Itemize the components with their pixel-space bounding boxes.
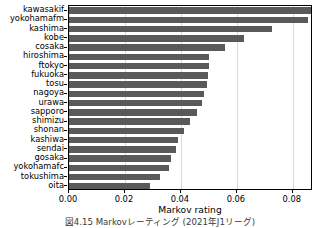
x-tick-mark-0.08 — [292, 190, 293, 193]
x-tick-label-0.08: 0.08 — [272, 194, 312, 204]
bar-series — [69, 6, 311, 189]
figure-markov-rating-chart: kawasakifyokohamafmkashimakobecosakahiro… — [0, 0, 320, 228]
y-axis-tick-labels: kawasakifyokohamafmkashimakobecosakahiro… — [0, 5, 64, 190]
y-tick-mark-oita — [64, 185, 67, 186]
y-tick-mark-tosu — [64, 84, 67, 85]
bar-tosu — [69, 81, 207, 87]
bar-row — [69, 25, 272, 34]
bar-row — [69, 117, 190, 126]
bar-row — [69, 154, 171, 163]
y-tick-mark-tokushima — [64, 176, 67, 177]
bar-shonan — [69, 128, 184, 134]
x-tick-label-0.02: 0.02 — [104, 194, 144, 204]
bar-row — [69, 71, 208, 80]
y-tick-mark-hiroshima — [64, 56, 67, 57]
bar-yokohamafm — [69, 17, 308, 23]
bar-row — [69, 182, 150, 190]
y-tick-mark-shimizu — [64, 121, 67, 122]
x-tick-label-0.04: 0.04 — [160, 194, 200, 204]
y-tick-mark-fukuoka — [64, 74, 67, 75]
y-tick-mark-nagoya — [64, 93, 67, 94]
bar-oita — [69, 183, 150, 189]
bar-row — [69, 43, 225, 52]
bar-nagoya — [69, 91, 204, 97]
bar-kawasakif — [69, 7, 312, 13]
bar-kashiwa — [69, 137, 178, 143]
y-tick-mark-cosaka — [64, 47, 67, 48]
bar-kashima — [69, 26, 272, 32]
bar-kobe — [69, 35, 244, 41]
x-axis-tick-labels: 0.000.020.040.060.08 — [0, 190, 320, 204]
bar-row — [69, 15, 308, 24]
bar-row — [69, 136, 178, 145]
y-tick-mark-sapporo — [64, 111, 67, 112]
bar-row — [69, 108, 197, 117]
x-tick-mark-0.04 — [180, 190, 181, 193]
y-tick-mark-gosaka — [64, 158, 67, 159]
bar-fukuoka — [69, 72, 208, 78]
bar-row — [69, 89, 204, 98]
bar-yokohamafc — [69, 165, 169, 171]
bar-row — [69, 126, 184, 135]
y-tick-mark-kashima — [64, 28, 67, 29]
bar-row — [69, 80, 207, 89]
bar-shimizu — [69, 118, 190, 124]
bar-row — [69, 173, 160, 182]
bar-cosaka — [69, 44, 225, 50]
bar-sapporo — [69, 109, 197, 115]
x-tick-mark-0.06 — [236, 190, 237, 193]
y-tick-mark-ftokyo — [64, 65, 67, 66]
x-axis-title: Markov rating — [68, 204, 312, 215]
y-tick-mark-urawa — [64, 102, 67, 103]
x-tick-mark-0.02 — [124, 190, 125, 193]
y-tick-mark-sendai — [64, 148, 67, 149]
y-tick-mark-kobe — [64, 37, 67, 38]
bar-row — [69, 34, 244, 43]
bar-sendai — [69, 146, 176, 152]
y-tick-mark-yokohamafc — [64, 167, 67, 168]
x-tick-mark-0.00 — [68, 190, 69, 193]
figure-caption: 図4.15 Markovレーティング (2021年J1リーグ) — [0, 217, 320, 228]
bar-urawa — [69, 100, 202, 106]
bar-hiroshima — [69, 54, 209, 60]
bar-row — [69, 163, 169, 172]
bar-row — [69, 52, 209, 61]
y-tick-mark-kashiwa — [64, 139, 67, 140]
bar-row — [69, 145, 176, 154]
bar-row — [69, 99, 202, 108]
bar-row — [69, 62, 209, 71]
bar-row — [69, 6, 312, 15]
y-tick-mark-shonan — [64, 130, 67, 131]
y-tick-mark-kawasakif — [64, 10, 67, 11]
bar-gosaka — [69, 155, 171, 161]
x-tick-label-0.06: 0.06 — [216, 194, 256, 204]
y-tick-mark-yokohamafm — [64, 19, 67, 20]
plot-area — [68, 5, 312, 190]
x-tick-label-0.00: 0.00 — [48, 194, 88, 204]
bar-ftokyo — [69, 63, 209, 69]
y-tick-label-oita: oita — [0, 181, 64, 190]
bar-tokushima — [69, 174, 160, 180]
